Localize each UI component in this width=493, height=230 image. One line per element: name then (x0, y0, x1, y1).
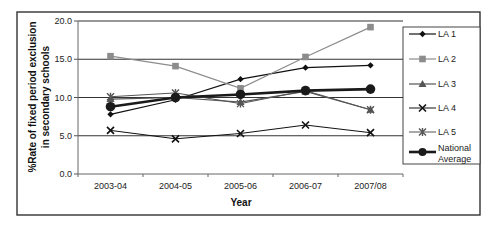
x-axis-title: Year (230, 197, 251, 208)
legend-label: LA 4 (438, 103, 456, 113)
chart-canvas: %Rate of fixed period exclusion in secon… (0, 0, 493, 230)
circle-marker-icon (236, 90, 246, 100)
square-marker-icon (367, 24, 374, 31)
legend-label: LA 3 (438, 79, 456, 89)
circle-marker-icon (106, 102, 116, 112)
legend-label: Average (438, 154, 471, 164)
square-marker-icon (419, 56, 426, 63)
x-tick-label: 2004-05 (159, 181, 192, 191)
x-tick-label: 2006-07 (289, 181, 322, 191)
square-marker-icon (172, 63, 179, 70)
circle-marker-icon (419, 148, 427, 156)
y-tick-label: 0.0 (59, 169, 72, 179)
y-tick-label: 20.0 (54, 16, 72, 26)
circle-marker-icon (171, 93, 181, 103)
y-axis-title-line-2: in secondary schools (40, 45, 51, 148)
legend-label: LA 5 (438, 127, 456, 137)
square-marker-icon (302, 54, 309, 61)
square-marker-icon (107, 53, 114, 60)
legend: LA 1LA 2LA 3LA 4LA 5NationalAverage (403, 27, 480, 164)
y-tick-label: 5.0 (59, 131, 72, 141)
legend-label: LA 1 (438, 29, 456, 39)
y-axis-title-line-1: %Rate of fixed period exclusion (27, 21, 38, 172)
circle-marker-icon (301, 86, 311, 96)
line-chart: %Rate of fixed period exclusion in secon… (0, 0, 493, 230)
legend-label: National (438, 143, 471, 153)
x-tick-label: 2005-06 (224, 181, 257, 191)
x-tick-label: 2007/08 (354, 181, 387, 191)
circle-marker-icon (366, 84, 376, 94)
y-tick-label: 15.0 (54, 54, 72, 64)
x-tick-label: 2003-04 (94, 181, 127, 191)
y-tick-label: 10.0 (54, 93, 72, 103)
legend-label: LA 2 (438, 54, 456, 64)
